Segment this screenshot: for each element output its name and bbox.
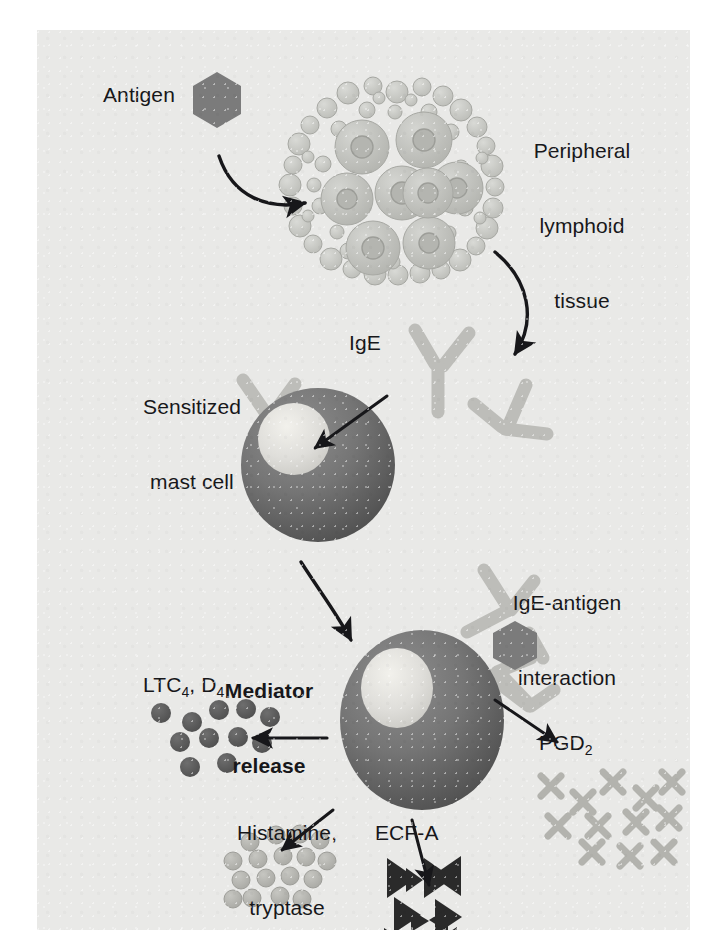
pgd-crosses-shape xyxy=(541,772,682,866)
lymphoid-tissue-cluster-shape xyxy=(279,77,504,285)
label-histamine-line1: Histamine, xyxy=(187,820,387,845)
label-ltc-mid: , D xyxy=(189,673,216,696)
label-peripheral-line1: Peripheral xyxy=(507,138,657,163)
label-pgd-prefix: PGD xyxy=(539,731,585,754)
label-sensitized-line1: Sensitized xyxy=(97,394,287,419)
label-sensitized-line2: mast cell xyxy=(97,469,287,494)
label-pgd2: PGD2 xyxy=(539,730,593,763)
label-histamine-line2: tryptase xyxy=(187,895,387,920)
label-ltc-prefix: LTC xyxy=(143,673,181,696)
antigen-hexagon-shape xyxy=(193,72,241,128)
label-interaction-line2: interaction xyxy=(477,665,657,690)
figure-canvas: Antigen Peripheral lymphoid tissue IgE S… xyxy=(0,0,715,944)
label-ige-antigen-interaction: IgE-antigen interaction xyxy=(477,540,657,740)
label-peripheral-lymphoid-tissue: Peripheral lymphoid tissue xyxy=(507,88,657,363)
label-antigen: Antigen xyxy=(103,82,175,107)
label-ecfa: ECF-A xyxy=(375,820,439,845)
label-ige: IgE xyxy=(349,330,381,355)
label-sensitized-mast-cell: Sensitized mast cell xyxy=(97,344,287,544)
label-ltc-sub2: 4 xyxy=(216,684,224,700)
label-histamine-tryptase: Histamine, tryptase xyxy=(187,770,387,930)
label-interaction-line1: IgE-antigen xyxy=(477,590,657,615)
label-peripheral-line2: lymphoid xyxy=(507,213,657,238)
diagram-panel: Antigen Peripheral lymphoid tissue IgE S… xyxy=(37,30,690,930)
label-pgd-sub: 2 xyxy=(585,742,593,758)
label-ltc4-d4: LTC4, D4 xyxy=(143,672,224,705)
label-peripheral-line3: tissue xyxy=(507,288,657,313)
